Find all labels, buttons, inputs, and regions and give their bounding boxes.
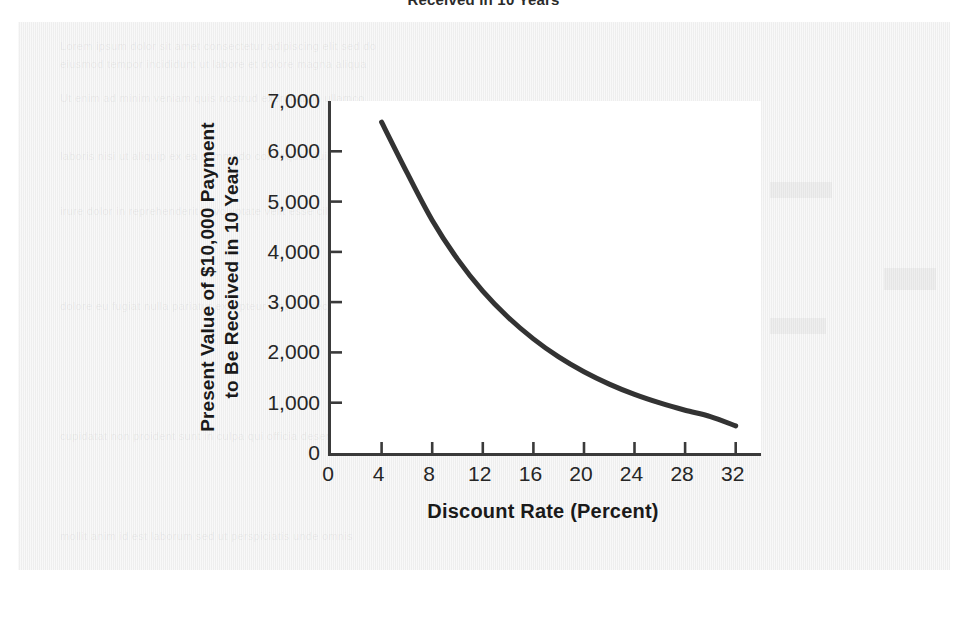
x-tick-label: 28: [670, 462, 693, 486]
x-tick-label: 12: [468, 462, 491, 486]
y-tick-label: 0: [246, 441, 320, 465]
x-tick-label: 20: [569, 462, 592, 486]
x-tick-label: 32: [721, 462, 744, 486]
y-tick-label: 6,000: [246, 139, 320, 163]
x-tick-label: 8: [423, 462, 435, 486]
x-tick-label: 16: [519, 462, 542, 486]
y-tick-label: 1,000: [246, 391, 320, 415]
scanned-page: Lorem ipsum dolor sit amet consectetur a…: [0, 0, 967, 624]
y-axis-title: Present Value of $10,000 Payment to Be R…: [196, 97, 244, 457]
data-series-line: [382, 122, 736, 426]
y-tick-label: 5,000: [246, 190, 320, 214]
x-axis-tick-labels: 0 4 8 12 16 20 24 28 32: [328, 462, 758, 492]
y-tick-label: 3,000: [246, 290, 320, 314]
x-tick-label: 0: [322, 462, 334, 486]
x-axis-ticks: [382, 442, 736, 453]
x-tick-label: 4: [373, 462, 385, 486]
chart-figure: 0 1,000 2,000 3,000 4,000 5,000 6,000 7,…: [0, 0, 967, 624]
y-axis-tick-labels: 0 1,000 2,000 3,000 4,000 5,000 6,000 7,…: [238, 101, 320, 453]
y-tick-label: 4,000: [246, 240, 320, 264]
plot-svg: [331, 101, 761, 453]
x-tick-label: 24: [620, 462, 643, 486]
y-tick-label: 2,000: [246, 340, 320, 364]
y-axis-ticks: [331, 151, 342, 402]
y-axis-title-line-1: Present Value of $10,000 Payment: [196, 97, 220, 457]
x-axis-title: Discount Rate (Percent): [328, 500, 758, 523]
plot-area: [328, 101, 761, 456]
y-tick-label: 7,000: [246, 89, 320, 113]
y-axis-title-line-2: to Be Received in 10 Years: [220, 97, 244, 457]
